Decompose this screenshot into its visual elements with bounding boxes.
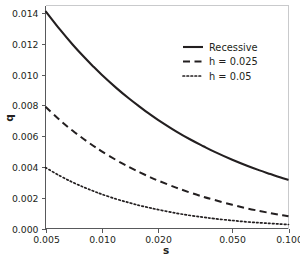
y-tick-label: 0.008 xyxy=(12,100,39,111)
legend-label-1: Recessive xyxy=(209,42,258,53)
y-tick-label: 0.012 xyxy=(12,39,39,50)
x-axis-title: s xyxy=(163,244,169,256)
legend-label-3: h = 0.05 xyxy=(209,71,251,82)
x-tick-label: 0.010 xyxy=(89,234,116,245)
chart-figure: 0.0050.0100.0200.0500.100 0.0000.0020.00… xyxy=(0,0,300,266)
legend-label-2: h = 0.025 xyxy=(209,56,258,67)
y-tick-label: 0.002 xyxy=(12,193,39,204)
x-tick-label: 0.050 xyxy=(219,234,246,245)
y-tick-label: 0.010 xyxy=(12,70,39,81)
y-tick-label: 0.014 xyxy=(12,8,39,19)
x-tick-label: 0.005 xyxy=(33,234,60,245)
line-chart: 0.0050.0100.0200.0500.100 0.0000.0020.00… xyxy=(0,0,300,266)
y-axis-title: q xyxy=(3,114,15,122)
y-tick-label: 0.006 xyxy=(12,131,39,142)
x-tick-label: 0.100 xyxy=(276,234,300,245)
y-tick-label: 0.004 xyxy=(12,162,39,173)
x-tick-label: 0.020 xyxy=(145,234,172,245)
y-tick-label: 0.000 xyxy=(12,224,39,235)
